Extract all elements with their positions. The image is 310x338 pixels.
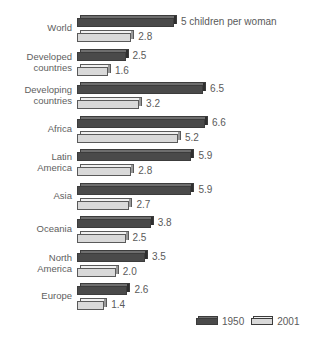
bar-rect — [77, 33, 131, 42]
bar-value-label: 2.5 — [133, 232, 147, 244]
bar-value-label: 2.8 — [138, 31, 152, 43]
category-label: North America — [0, 252, 72, 274]
bar-value-label: 5.9 — [198, 150, 212, 162]
bar-value-label: 2.5 — [133, 50, 147, 62]
chart-row: Developed countries2.51.6 — [0, 48, 310, 80]
bar-group: 5.92.8 — [77, 148, 310, 180]
legend-item-2001: 2001 — [251, 316, 299, 327]
bar-value-label: 5 children per woman — [181, 16, 277, 28]
legend-label: 1950 — [222, 316, 244, 327]
bar-value-label: 6.6 — [212, 117, 226, 129]
bar-rect — [77, 253, 145, 262]
legend-item-1950: 1950 — [196, 316, 244, 327]
bar-group: 2.61.4 — [77, 282, 310, 314]
category-label: Africa — [0, 123, 72, 134]
category-label: Europe — [0, 290, 72, 301]
bar-rect — [77, 67, 108, 76]
bar-value-label: 2.7 — [136, 199, 150, 211]
bar-group: 5.92.7 — [77, 182, 310, 214]
category-label: Asia — [0, 190, 72, 201]
legend-swatch-light-icon — [251, 318, 273, 325]
bar-value-label: 5.9 — [198, 184, 212, 196]
bar-rect — [77, 268, 116, 277]
bar-value-label: 3.2 — [146, 98, 160, 110]
bar-rect — [77, 100, 139, 109]
chart-row: Europe2.61.4 — [0, 282, 310, 314]
bar-rect — [77, 286, 127, 295]
bar-value-label: 3.8 — [158, 217, 172, 229]
chart-row: Latin America5.92.8 — [0, 148, 310, 180]
category-label: World — [0, 22, 72, 33]
bar-rect — [77, 301, 104, 310]
bar-rect — [77, 85, 203, 94]
bar-group: 3.82.5 — [77, 215, 310, 247]
bar-value-label: 3.5 — [152, 251, 166, 263]
bar-rect — [77, 18, 174, 27]
chart-row: Asia5.92.7 — [0, 182, 310, 214]
bar-value-label: 2.6 — [134, 284, 148, 296]
bar-chart: World5 children per woman2.8Developed co… — [0, 0, 310, 338]
legend-label: 2001 — [277, 316, 299, 327]
chart-row: World5 children per woman2.8 — [0, 14, 310, 46]
category-label: Developed countries — [0, 51, 72, 73]
bar-group: 6.65.2 — [77, 115, 310, 147]
chart-legend: 1950 2001 — [196, 314, 300, 328]
bar-group: 2.51.6 — [77, 48, 310, 80]
category-label: Oceania — [0, 223, 72, 234]
bar-rect — [77, 52, 126, 61]
bar-value-label: 6.5 — [210, 83, 224, 95]
category-label: Latin America — [0, 151, 72, 173]
bar-rect — [77, 152, 191, 161]
bar-value-label: 1.4 — [111, 299, 125, 311]
bar-value-label: 2.8 — [138, 165, 152, 177]
category-label: Developing countries — [0, 84, 72, 106]
legend-swatch-dark-icon — [196, 318, 218, 325]
bar-group: 6.53.2 — [77, 81, 310, 113]
bar-rect — [77, 234, 126, 243]
bar-value-label: 2.0 — [123, 266, 137, 278]
bar-rect — [77, 134, 178, 143]
chart-row: Developing countries6.53.2 — [0, 81, 310, 113]
chart-row: North America3.52.0 — [0, 249, 310, 281]
bar-value-label: 5.2 — [185, 132, 199, 144]
chart-row: Africa6.65.2 — [0, 115, 310, 147]
chart-row: Oceania3.82.5 — [0, 215, 310, 247]
bar-rect — [77, 119, 205, 128]
bar-rect — [77, 219, 151, 228]
bar-group: 5 children per woman2.8 — [77, 14, 310, 46]
bar-rect — [77, 167, 131, 176]
bar-rect — [77, 201, 129, 210]
bar-group: 3.52.0 — [77, 249, 310, 281]
bar-rect — [77, 186, 191, 195]
bar-value-label: 1.6 — [115, 65, 129, 77]
